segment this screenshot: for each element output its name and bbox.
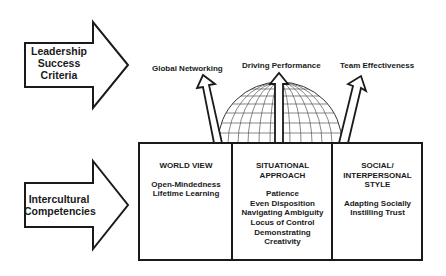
label-line: Competencies: [24, 205, 94, 217]
competency-item: Instilling Trust: [333, 208, 422, 218]
box-world-view: WORLD VIEW Open-Mindedness Lifetime Lear…: [140, 143, 232, 199]
criterion-team-effectiveness: Team Effectiveness: [340, 61, 414, 70]
global-networking-arrow: [197, 75, 222, 143]
title-line: WORLD VIEW: [140, 161, 232, 171]
box-title: WORLD VIEW: [140, 161, 232, 171]
competency-item: Even Disposition: [233, 199, 332, 209]
box-title: SOCIAL/ INTERPERSONAL STYLE: [333, 161, 422, 190]
title-line: INTERPERSONAL: [333, 171, 422, 181]
box-title: SITUATIONAL APPROACH: [233, 161, 332, 180]
label-line: Criteria: [24, 69, 94, 81]
criterion-driving-performance: Driving Performance: [242, 61, 321, 70]
competency-item: Creativity: [233, 237, 332, 247]
competency-item: Patience: [233, 189, 332, 199]
competency-item: Open-Mindedness: [140, 180, 232, 190]
title-line: SOCIAL/: [333, 161, 422, 171]
competency-item: Demonstrating: [233, 228, 332, 238]
competency-item: Locus of Control: [233, 218, 332, 228]
leadership-success-criteria-label: Leadership Success Criteria: [24, 45, 94, 81]
box-social-interpersonal-style: SOCIAL/ INTERPERSONAL STYLE Adapting Soc…: [333, 143, 422, 218]
intercultural-competencies-label: Intercultural Competencies: [24, 193, 94, 217]
box-items: Open-Mindedness Lifetime Learning: [140, 180, 232, 199]
competency-item: Navigating Ambiguity: [233, 208, 332, 218]
label-line: Intercultural: [24, 193, 94, 205]
title-line: APPROACH: [233, 171, 332, 181]
title-line: SITUATIONAL: [233, 161, 332, 171]
box-items: Patience Even Disposition Navigating Amb…: [233, 189, 332, 247]
label-line: Success: [24, 57, 94, 69]
label-line: Leadership: [24, 45, 94, 57]
box-items: Adapting Socially Instilling Trust: [333, 199, 422, 218]
criterion-global-networking: Global Networking: [152, 64, 223, 73]
competency-item: Lifetime Learning: [140, 189, 232, 199]
title-line: STYLE: [333, 180, 422, 190]
competency-item: Adapting Socially: [333, 199, 422, 209]
box-situational-approach: SITUATIONAL APPROACH Patience Even Dispo…: [233, 143, 332, 247]
diagram-canvas: [0, 0, 446, 276]
team-effectiveness-arrow: [339, 76, 366, 143]
